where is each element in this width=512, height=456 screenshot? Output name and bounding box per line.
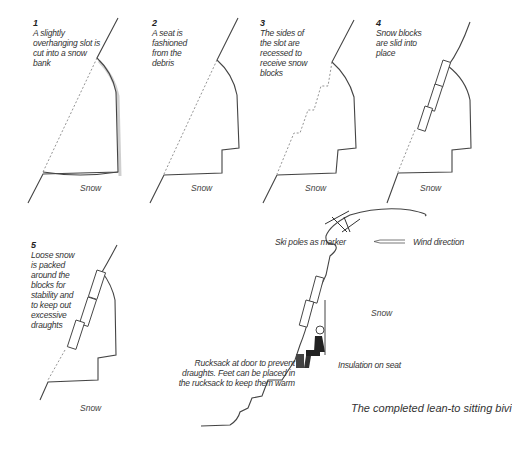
step-1-number: 1 (33, 18, 103, 28)
insulation-label: Insulation on seat (338, 360, 401, 370)
step-1-snow: Snow (80, 183, 101, 193)
step-2-label: 2 A seat is fashioned from the debris (152, 18, 202, 68)
step-3-text: The sides of the slot are recessed to re… (260, 28, 307, 78)
step-5-snow: Snow (80, 403, 101, 413)
step-2-text: A seat is fashioned from the debris (152, 28, 187, 68)
step-1-label: 1 A slightly overhanging slot is cut int… (33, 18, 103, 68)
step-3-label: 3 The sides of the slot are recessed to … (260, 18, 310, 78)
final-snow-label: Snow (371, 308, 392, 318)
step-2-number: 2 (152, 18, 202, 28)
ski-poles-label: Ski poles as marker (275, 237, 346, 247)
step-3-snow: Snow (305, 183, 326, 193)
final-caption: The completed lean-to sitting bivi (351, 402, 512, 414)
step-5-number: 5 (31, 240, 79, 250)
step-4-label: 4 Snow blocks are slid into place (376, 18, 426, 58)
rucksack-label: Rucksack at door to prevent draughts. Fe… (170, 358, 295, 388)
step-4-number: 4 (376, 18, 426, 28)
step-2-snow: Snow (191, 183, 212, 193)
step-5-label: 5 Loose snow is packed around the blocks… (31, 240, 79, 330)
step-4-text: Snow blocks are slid into place (376, 28, 422, 58)
step-4-snow: Snow (420, 183, 441, 193)
step-1-text: A slightly overhanging slot is cut into … (33, 28, 100, 68)
step-3-number: 3 (260, 18, 310, 28)
wind-direction-label: Wind direction (413, 237, 464, 247)
step-5-text: Loose snow is packed around the blocks f… (31, 250, 74, 330)
